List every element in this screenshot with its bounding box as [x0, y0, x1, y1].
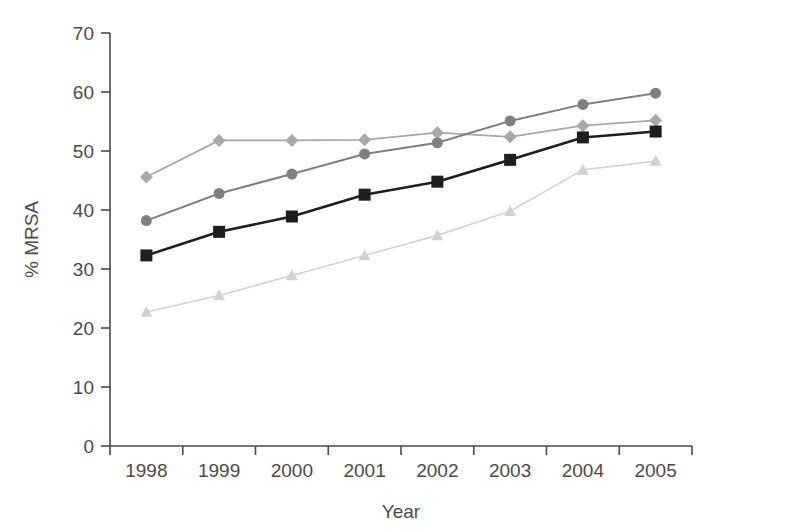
y-axis-tick-label: 50 [73, 141, 94, 162]
data-point-diamond [358, 133, 371, 146]
data-point-square [577, 131, 589, 143]
y-axis-tick-label: 60 [73, 82, 94, 103]
x-axis-tick-label: 2003 [489, 460, 531, 481]
data-point-triangle [504, 205, 516, 216]
x-axis-tick-label: 2001 [343, 460, 385, 481]
y-axis-tick-label: 30 [73, 259, 94, 280]
data-point-triangle [650, 155, 662, 166]
series-line-circle [146, 93, 655, 220]
y-axis-title: % MRSA [21, 201, 42, 278]
data-point-circle [650, 88, 661, 99]
data-point-diamond [285, 134, 298, 147]
data-point-circle [286, 169, 297, 180]
x-axis-tick-label: 2005 [634, 460, 676, 481]
data-point-square [431, 176, 443, 188]
x-axis-tick-label: 2002 [416, 460, 458, 481]
y-axis-tick-label: 40 [73, 200, 94, 221]
data-point-square [286, 210, 298, 222]
data-point-square [504, 154, 516, 166]
x-axis-tick-label: 1998 [125, 460, 167, 481]
data-point-circle [505, 115, 516, 126]
x-axis-tick-label: 1999 [198, 460, 240, 481]
y-axis-tick-label: 20 [73, 318, 94, 339]
y-axis-tick-label: 70 [73, 23, 94, 44]
x-axis-tick-label: 2000 [271, 460, 313, 481]
data-point-diamond [576, 119, 589, 132]
data-point-circle [214, 188, 225, 199]
series-circle [141, 88, 661, 226]
data-point-diamond [504, 130, 517, 143]
data-point-circle [577, 99, 588, 110]
data-point-square [650, 126, 662, 138]
data-point-circle [359, 148, 370, 159]
chart-container: 010203040506070% MRSA1998199920002001200… [0, 0, 795, 529]
x-axis-tick-label: 2004 [562, 460, 605, 481]
mrsa-trend-line-chart: 010203040506070% MRSA1998199920002001200… [0, 0, 795, 529]
y-axis-tick-label: 0 [83, 436, 94, 457]
data-point-diamond [649, 114, 662, 127]
data-point-square [213, 226, 225, 238]
data-point-square [359, 189, 371, 201]
data-point-square [140, 249, 152, 261]
data-point-circle [141, 215, 152, 226]
y-axis-tick-label: 10 [73, 377, 94, 398]
data-point-circle [432, 137, 443, 148]
data-point-diamond [140, 170, 153, 183]
data-point-diamond [213, 134, 226, 147]
x-axis-title: Year [382, 501, 421, 522]
